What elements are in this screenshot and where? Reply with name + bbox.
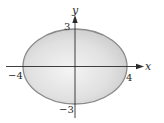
x-axis-label: x [145,60,152,73]
diagram-canvas: y x 3 −3 −4 4 [0,0,164,123]
tick-label-y-pos: 3 [64,21,70,32]
tick-label-x-pos: 4 [126,72,132,83]
tick-label-y-neg: −3 [59,104,74,115]
x-axis-arrow-icon [136,64,144,69]
ellipse-diagram: y x 3 −3 −4 4 [0,0,164,123]
tick-label-x-neg: −4 [8,70,23,81]
y-axis-label: y [71,4,79,17]
